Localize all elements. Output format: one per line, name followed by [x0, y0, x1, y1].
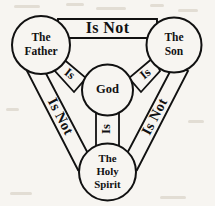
- node-god-label: God: [96, 82, 119, 96]
- spoke-holyspirit-god-label: Is: [99, 124, 113, 134]
- node-holy-spirit-label-line3: Spirit: [94, 178, 121, 190]
- node-son-label-line1: The: [164, 31, 183, 43]
- node-father-label-line1: The: [31, 31, 50, 43]
- node-father: The Father: [12, 16, 70, 74]
- trinity-shield-diagram: Is Not Is Not Is Not Is Is Is: [0, 0, 215, 206]
- node-father-label-line2: Father: [24, 45, 57, 57]
- node-god: God: [82, 65, 133, 116]
- node-holy-spirit: The Holy Spirit: [79, 144, 136, 201]
- band-father-son-label: Is Not: [86, 19, 130, 36]
- node-son-label-line2: Son: [165, 45, 184, 57]
- diagram-canvas: Is Not Is Not Is Not Is Is Is: [0, 0, 215, 206]
- node-holy-spirit-label-line1: The: [99, 152, 117, 164]
- node-holy-spirit-label-line2: Holy: [96, 165, 119, 177]
- node-son: The Son: [147, 18, 202, 73]
- band-father-son: Is Not: [58, 19, 157, 38]
